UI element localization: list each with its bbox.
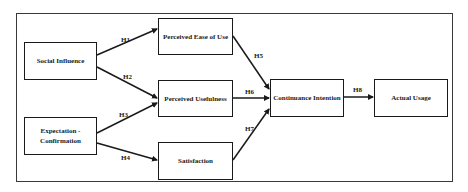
node-perceived-ease-of-use: Perceived Ease of Use [158,18,233,55]
node-label: Perceived Usefulness [164,94,226,104]
edge-label-h3: H3 [119,111,128,119]
node-label: Continuance Intention [273,93,340,103]
node-satisfaction: Satisfaction [158,142,233,180]
node-label: Expectation - Confirmation [40,126,81,146]
node-label: Perceived Ease of Use [163,32,228,42]
node-label: Actual Usage [391,93,430,103]
edge-h5-arrow [233,36,269,89]
edge-h2-arrow [97,67,157,98]
node-actual-usage: Actual Usage [374,79,448,117]
edge-label-h7: H7 [245,125,254,133]
edge-label-h5: H5 [254,52,263,60]
node-perceived-usefulness: Perceived Usefulness [158,80,233,117]
edge-label-h6: H6 [245,88,254,96]
edge-label-h1: H1 [121,36,130,44]
edge-label-h4: H4 [121,154,130,162]
node-expectation-confirmation: Expectation - Confirmation [24,117,97,155]
node-continuance-intention: Continuance Intention [270,79,344,117]
node-label: Satisfaction [178,156,213,166]
edge-label-h8: H8 [353,86,362,94]
edge-h7-arrow [233,109,269,160]
node-label: Social Influence [37,56,85,66]
edge-label-h2: H2 [123,73,132,81]
node-social-influence: Social Influence [24,42,97,80]
